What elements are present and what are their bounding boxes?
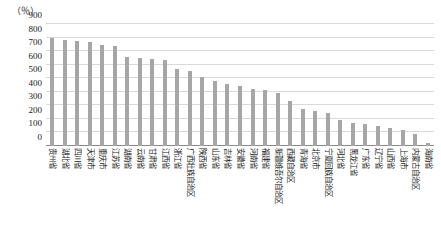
bar-slot	[384, 24, 397, 146]
bar	[213, 81, 217, 146]
bar-slot	[259, 24, 272, 146]
bar	[125, 57, 129, 146]
x-axis-tick-label: 江西省	[161, 148, 169, 169]
bar	[188, 71, 192, 146]
bar-slot	[246, 24, 259, 146]
x-label-slot: 安徽省	[234, 148, 247, 248]
x-axis-tick-label: 青海省	[299, 148, 307, 169]
bar-slot	[321, 24, 334, 146]
x-axis-tick-label: 山西省	[386, 148, 394, 169]
bar	[88, 42, 92, 146]
bar	[50, 38, 54, 146]
bar	[150, 59, 154, 146]
x-axis-tick-label: 新疆维吾尔自治区	[274, 148, 282, 204]
bar-chart: （％） 0100200300400500600700800900 贵州省湖北省四…	[0, 0, 441, 251]
bar	[238, 86, 242, 146]
bar-slot	[346, 24, 359, 146]
bar-slot	[146, 24, 159, 146]
bar	[301, 109, 305, 146]
plot-area: 0100200300400500600700800900	[46, 24, 434, 146]
y-axis-tick-label: 700	[29, 38, 43, 47]
bar	[138, 58, 142, 146]
bar-slot	[184, 24, 197, 146]
bar-slot	[171, 24, 184, 146]
x-axis-tick-label: 山东省	[211, 148, 219, 169]
x-axis-tick-label: 河北省	[336, 148, 344, 169]
x-axis-tick-label: 重庆市	[99, 148, 107, 169]
x-axis-tick-label: 天津市	[86, 148, 94, 169]
y-axis-tick-label: 600	[29, 51, 43, 60]
bar	[376, 126, 380, 146]
bars-container	[46, 24, 434, 146]
bar	[225, 84, 229, 146]
x-axis-tick-label: 甘肃省	[149, 148, 157, 169]
x-axis-tick-label: 陕西省	[199, 148, 207, 169]
y-axis-tick-label: 400	[29, 78, 43, 87]
x-axis-tick-label: 福建省	[261, 148, 269, 169]
x-label-slot: 山东省	[209, 148, 222, 248]
y-axis-tick-label: 300	[29, 92, 43, 101]
bar	[363, 124, 367, 146]
bar-slot	[271, 24, 284, 146]
x-label-slot: 广东省	[359, 148, 372, 248]
bar-slot	[159, 24, 172, 146]
x-label-slot: 吉林省	[221, 148, 234, 248]
x-axis-tick-label: 湖北省	[61, 148, 69, 169]
bar-slot	[84, 24, 97, 146]
x-axis-tick-label: 浙江省	[174, 148, 182, 169]
bar	[326, 113, 330, 146]
bar	[200, 77, 204, 146]
x-axis-tick-label: 四川省	[74, 148, 82, 169]
x-label-slot: 江西省	[159, 148, 172, 248]
x-label-slot: 陕西省	[196, 148, 209, 248]
x-label-slot: 山西省	[384, 148, 397, 248]
y-axis-tick-label: 200	[29, 105, 43, 114]
bar	[413, 134, 417, 146]
bar	[276, 93, 280, 146]
x-label-slot: 河北省	[334, 148, 347, 248]
bar-slot	[221, 24, 234, 146]
bar-slot	[196, 24, 209, 146]
x-label-slot: 重庆市	[96, 148, 109, 248]
bar-slot	[284, 24, 297, 146]
x-axis-tick-label: 北京市	[311, 148, 319, 169]
x-label-slot: 福建省	[259, 148, 272, 248]
x-label-slot: 内蒙古自治区	[409, 148, 422, 248]
x-label-slot: 辽宁省	[371, 148, 384, 248]
bar	[426, 143, 430, 146]
x-label-slot: 新疆维吾尔自治区	[271, 148, 284, 248]
x-axis-tick-label: 西藏自治区	[286, 148, 294, 183]
bar-slot	[134, 24, 147, 146]
y-axis-unit-label: （％）	[12, 4, 39, 17]
y-axis-tick-label: 100	[29, 119, 43, 128]
bar-slot	[209, 24, 222, 146]
bar-slot	[396, 24, 409, 146]
x-label-slot: 浙江省	[171, 148, 184, 248]
bar-slot	[96, 24, 109, 146]
bar-slot	[59, 24, 72, 146]
x-axis-labels: 贵州省湖北省四川省天津市重庆市江苏省湖南省云南省甘肃省江西省浙江省广西壮族自治区…	[46, 148, 434, 248]
x-label-slot: 黑龙江省	[346, 148, 359, 248]
bar	[401, 130, 405, 146]
x-label-slot: 江苏省	[109, 148, 122, 248]
bar-slot	[234, 24, 247, 146]
bar	[263, 90, 267, 146]
bar-slot	[121, 24, 134, 146]
x-axis-tick-label: 湖南省	[124, 148, 132, 169]
x-label-slot: 甘肃省	[146, 148, 159, 248]
bar-slot	[409, 24, 422, 146]
x-label-slot: 贵州省	[46, 148, 59, 248]
x-axis-tick-label: 河南省	[249, 148, 257, 169]
x-axis-tick-label: 宁夏回族自治区	[324, 148, 332, 197]
bar	[75, 41, 79, 146]
bar	[351, 123, 355, 146]
x-axis-tick-label: 贵州省	[49, 148, 57, 169]
bar	[388, 128, 392, 146]
x-axis-tick-label: 黑龙江省	[349, 148, 357, 176]
x-axis-tick-label: 云南省	[136, 148, 144, 169]
bar	[251, 89, 255, 146]
x-label-slot: 宁夏回族自治区	[321, 148, 334, 248]
x-label-slot: 湖南省	[121, 148, 134, 248]
y-axis-tick-label: 0	[38, 133, 43, 142]
x-label-slot: 河南省	[246, 148, 259, 248]
